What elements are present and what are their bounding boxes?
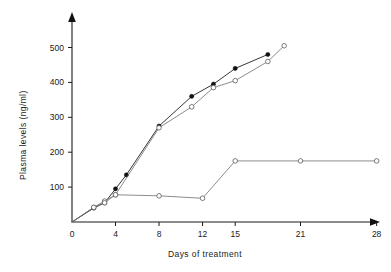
x-tick-label: 0 (70, 229, 75, 239)
data-point-marker (157, 194, 162, 199)
y-tick-label: 400 (50, 77, 64, 87)
y-axis-group: 100200300400500 Plasma levels (ng/ml) (18, 12, 76, 222)
x-tick-label-group: 04812152128 (70, 229, 382, 239)
data-point-marker (157, 125, 162, 130)
x-axis-group: 04812152128 Days of treatment (70, 218, 382, 259)
data-point-marker (374, 159, 379, 164)
x-axis-arrowhead (370, 218, 380, 226)
data-point-marker (233, 66, 237, 70)
data-point-marker (190, 94, 194, 98)
data-point-marker (298, 159, 303, 164)
data-point-marker (266, 52, 270, 56)
series-polyline (72, 54, 268, 222)
x-tick-label: 15 (230, 229, 240, 239)
x-tick-label: 21 (296, 229, 306, 239)
data-point-marker (189, 105, 194, 110)
x-tick-group (116, 222, 377, 226)
x-tick-label: 28 (372, 229, 382, 239)
data-point-marker (233, 159, 238, 164)
data-point-marker (233, 78, 238, 83)
y-tick-label-group: 100200300400500 (50, 43, 64, 193)
y-axis-title: Plasma levels (ng/ml) (18, 90, 28, 180)
y-tick-label: 200 (50, 147, 64, 157)
data-point-marker (102, 201, 107, 206)
data-point-marker (282, 43, 287, 48)
data-point-marker (91, 205, 96, 210)
y-tick-label: 100 (50, 182, 64, 192)
x-tick-label: 4 (113, 229, 118, 239)
data-point-marker (266, 59, 271, 64)
y-tick-group (68, 48, 72, 188)
x-axis-title: Days of treatment (168, 249, 242, 259)
series-polyline (72, 46, 284, 222)
plasma-levels-line-chart: 100200300400500 Plasma levels (ng/ml) 04… (0, 0, 391, 272)
series-layer (72, 43, 379, 222)
x-tick-label: 12 (198, 229, 208, 239)
x-tick-label: 8 (157, 229, 162, 239)
series-series-open-rising (72, 43, 286, 222)
data-point-marker (211, 85, 216, 90)
data-point-marker (113, 187, 117, 191)
y-axis-arrowhead (68, 12, 76, 22)
y-tick-label: 500 (50, 43, 64, 53)
y-tick-label: 300 (50, 112, 64, 122)
chart-container: 100200300400500 Plasma levels (ng/ml) 04… (0, 0, 391, 272)
data-point-marker (200, 196, 205, 201)
data-point-marker (113, 192, 118, 197)
